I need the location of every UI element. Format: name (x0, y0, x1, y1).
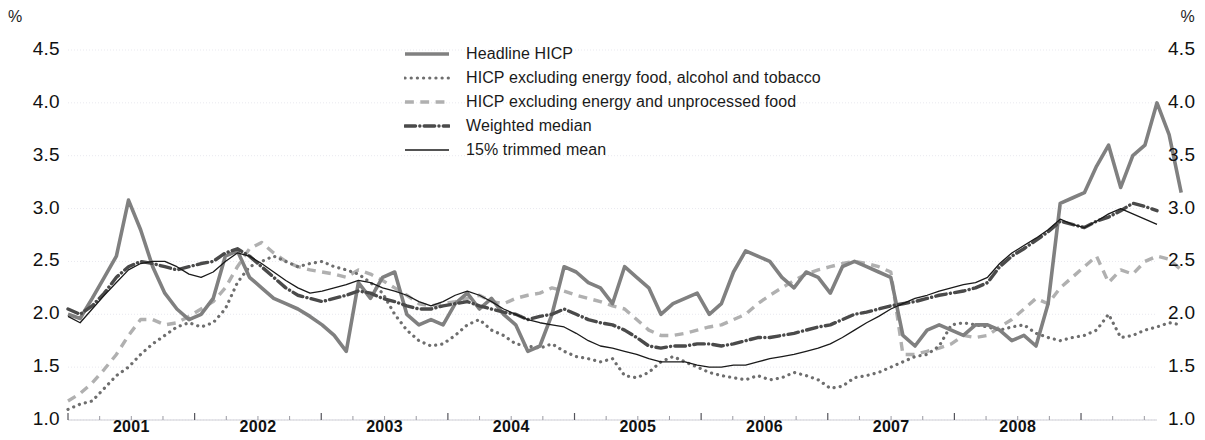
y-axis-tick-right: 1.0 (1168, 408, 1195, 430)
x-axis-tick: 2002 (240, 418, 277, 436)
y-axis-tick-left: 1.0 (33, 408, 60, 430)
x-axis (68, 413, 1157, 420)
legend-line-icon (404, 48, 450, 60)
legend-item[interactable]: 15% trimmed mean (404, 138, 821, 162)
legend-line-icon (404, 72, 450, 84)
y-axis-tick-left: 1.5 (33, 355, 60, 377)
x-axis-tick: 2004 (493, 418, 530, 436)
y-axis-tick-left: 2.0 (33, 302, 60, 324)
y-axis-tick-right: 3.5 (1168, 144, 1195, 166)
legend-item-label: HICP excluding energy food, alcohol and … (466, 69, 821, 87)
y-axis-tick-right: 4.5 (1168, 38, 1195, 60)
series-line (68, 209, 1157, 368)
legend-item[interactable]: Weighted median (404, 114, 821, 138)
y-axis-tick-right: 2.5 (1168, 249, 1195, 271)
y-axis-tick-left: 4.5 (33, 38, 60, 60)
legend-item[interactable]: Headline HICP (404, 42, 821, 66)
y-axis-tick-right: 3.0 (1168, 197, 1195, 219)
legend-line-icon (404, 96, 450, 108)
legend-item-label: Weighted median (466, 117, 592, 135)
legend-line-icon (404, 144, 450, 156)
y-axis-tick-right: 1.5 (1168, 355, 1195, 377)
legend-item[interactable]: HICP excluding energy and unprocessed fo… (404, 90, 821, 114)
legend-item-label: Headline HICP (466, 45, 573, 63)
x-axis-tick: 2005 (619, 418, 656, 436)
legend-item-label: 15% trimmed mean (466, 141, 606, 159)
y-axis-tick-right: 2.0 (1168, 302, 1195, 324)
chart-root: % % Headline HICPHICP excluding energy f… (0, 0, 1205, 440)
y-axis-tick-left: 2.5 (33, 249, 60, 271)
x-axis-tick: 2006 (746, 418, 783, 436)
legend-line-icon (404, 120, 450, 132)
series-line (68, 256, 1181, 409)
x-axis-tick: 2001 (113, 418, 150, 436)
y-axis-tick-left: 3.0 (33, 197, 60, 219)
y-axis-tick-right: 4.0 (1168, 91, 1195, 113)
y-axis-tick-left: 3.5 (33, 144, 60, 166)
y-axis-tick-left: 4.0 (33, 91, 60, 113)
legend-item-label: HICP excluding energy and unprocessed fo… (466, 93, 796, 111)
chart-legend: Headline HICPHICP excluding energy food,… (404, 42, 821, 162)
x-axis-tick: 2007 (873, 418, 910, 436)
x-axis-tick: 2003 (366, 418, 403, 436)
legend-item[interactable]: HICP excluding energy food, alcohol and … (404, 66, 821, 90)
x-axis-tick: 2008 (999, 418, 1036, 436)
